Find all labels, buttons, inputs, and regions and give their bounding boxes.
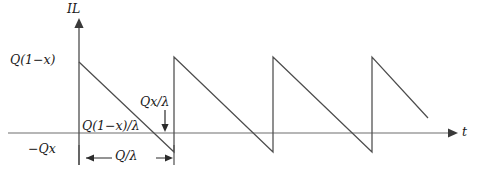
plot-canvas [0,0,490,189]
x-axis-label: t [462,126,467,139]
y-axis [74,18,83,165]
ripple-drop-label: Qx/λ [140,96,169,109]
x-axis-arrowhead [448,128,458,137]
trough-level-label: −Qx [28,143,56,156]
mid-level-label: Q(1−x)/λ [82,120,140,133]
period-arrow-right-head [165,155,173,162]
sawtooth-waveform-figure: IL t Q(1−x) Q(1−x)/λ −Qx Qx/λ Q/λ [0,0,490,189]
period-arrow-left-head [86,155,94,162]
x-axis [8,128,458,137]
y-axis-arrowhead [74,18,83,28]
ripple-indicator-arrow [161,110,168,132]
sawtooth-waveform [79,57,428,152]
peak-level-label: Q(1−x) [10,54,55,67]
y-axis-label: IL [67,3,80,16]
period-label: Q/λ [115,150,137,163]
